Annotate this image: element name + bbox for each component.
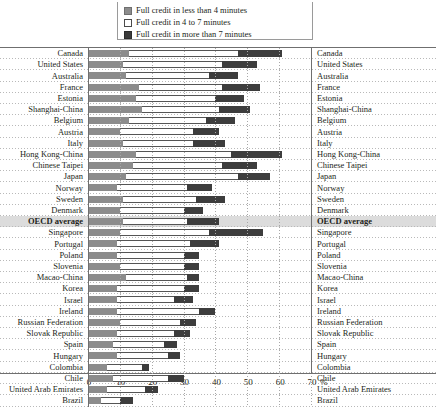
gridline — [279, 48, 280, 59]
gridline — [215, 339, 216, 350]
gridline — [152, 59, 153, 70]
gridline — [247, 126, 248, 137]
bar-segment — [88, 196, 123, 203]
bar-segment — [88, 128, 120, 135]
gridline — [152, 294, 153, 305]
gridline — [152, 115, 153, 126]
gridline — [215, 182, 216, 193]
gridline — [247, 216, 248, 227]
gridline — [184, 339, 185, 350]
gridline — [279, 317, 280, 328]
table-row: DenmarkDenmark — [0, 205, 436, 216]
gridline — [247, 171, 248, 182]
category-label-left: Portugal — [0, 240, 88, 249]
stacked-bar — [88, 162, 257, 169]
gridline — [184, 238, 185, 249]
category-label-left: Slovenia — [0, 262, 88, 271]
gridline — [152, 149, 153, 160]
gridline — [247, 317, 248, 328]
bar-segment — [209, 229, 263, 236]
gridline — [279, 250, 280, 261]
gridline — [120, 350, 121, 361]
row-plot — [88, 194, 311, 205]
table-row: KoreaKorea — [0, 283, 436, 294]
bar-segment — [88, 252, 117, 259]
gridline — [247, 395, 248, 406]
gridline — [184, 306, 185, 317]
gridline — [184, 261, 185, 272]
category-label-left: United States — [0, 60, 88, 69]
gridline — [184, 317, 185, 328]
bar-segment — [199, 308, 215, 315]
category-label-right: Colombia — [311, 363, 351, 372]
gridline — [120, 238, 121, 249]
bar-segment — [117, 308, 200, 315]
bar-segment — [126, 173, 238, 180]
category-label-right: Poland — [311, 251, 341, 260]
row-plot — [88, 160, 311, 171]
stacked-bar — [88, 252, 199, 259]
table-row: PolandPoland — [0, 250, 436, 261]
category-label-right: Norway — [311, 184, 344, 193]
table-row: FranceFrance — [0, 82, 436, 93]
stacked-bar — [88, 341, 177, 348]
gridline — [120, 48, 121, 59]
gridline — [215, 328, 216, 339]
bar-segment — [88, 229, 120, 236]
white-swatch-icon — [124, 19, 132, 27]
stacked-bar — [88, 196, 225, 203]
gridline — [120, 93, 121, 104]
legend-item-less-than-4-minutes: Full credit in less than 4 minutes — [124, 5, 312, 16]
category-label-left: Australia — [0, 72, 88, 81]
row-plot — [88, 306, 311, 317]
gridline — [279, 138, 280, 149]
gridline — [184, 395, 185, 406]
row-plot — [88, 171, 311, 182]
stacked-bar — [88, 140, 225, 147]
gridline — [279, 261, 280, 272]
gridline — [279, 194, 280, 205]
gridline — [184, 328, 185, 339]
stacked-bar — [88, 61, 257, 68]
bar-segment — [184, 263, 200, 270]
bar-segment — [88, 117, 129, 124]
table-row: SwedenSweden — [0, 194, 436, 205]
gridline — [215, 227, 216, 238]
gridline — [215, 373, 216, 384]
table-row: Shanghai-ChinaShanghai-China — [0, 104, 436, 115]
bar-segment — [88, 240, 117, 247]
row-plot — [88, 126, 311, 137]
category-label-right: Hong Kong-China — [311, 150, 380, 159]
bar-segment — [88, 151, 136, 158]
bar-segment — [126, 72, 209, 79]
gridline — [152, 227, 153, 238]
gridline — [279, 216, 280, 227]
bar-segment — [123, 218, 187, 225]
gridline — [215, 317, 216, 328]
bar-segment — [209, 72, 238, 79]
stacked-bar — [88, 296, 193, 303]
category-label-right: Sweden — [311, 195, 344, 204]
gridline — [120, 272, 121, 283]
bar-segment — [129, 117, 205, 124]
gridline — [152, 238, 153, 249]
gridline — [152, 82, 153, 93]
category-label-right: Canada — [311, 49, 343, 58]
gridline — [152, 362, 153, 373]
gridline — [120, 384, 121, 395]
bar-segment — [88, 386, 107, 393]
gridline — [279, 149, 280, 160]
gridline — [184, 362, 185, 373]
category-label-left: Austria — [0, 128, 88, 137]
gridline — [184, 373, 185, 384]
bar-segment — [88, 140, 123, 147]
gridline — [120, 171, 121, 182]
gridline — [120, 149, 121, 160]
stacked-bar — [88, 173, 270, 180]
gridline — [279, 70, 280, 81]
bar-segment — [120, 319, 181, 326]
stacked-bar — [88, 184, 212, 191]
table-row: Macao-ChinaMacao-China — [0, 272, 436, 283]
row-plot — [88, 395, 311, 406]
bar-segment — [117, 240, 190, 247]
